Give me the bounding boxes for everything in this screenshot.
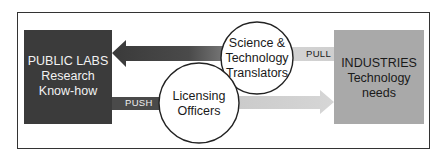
pull-label: PULL — [306, 48, 331, 59]
translators-line-1: Science & — [221, 36, 293, 51]
industries-line-2: Technology — [334, 71, 424, 86]
translators-line-2: Technology — [221, 51, 293, 66]
public-labs-label: PUBLIC LABS Research Know-how — [24, 54, 112, 99]
public-labs-line-2: Research — [24, 69, 112, 84]
public-labs-line-3: Know-how — [24, 84, 112, 99]
public-labs-line-1: PUBLIC LABS — [24, 54, 112, 69]
push-label: PUSH — [125, 97, 153, 108]
licensing-line-1: Licensing — [163, 89, 235, 104]
translators-label: Science & Technology Translators — [221, 36, 293, 81]
industries-line-1: INDUSTRIES — [334, 56, 424, 71]
translators-line-3: Translators — [221, 66, 293, 81]
industries-line-3: needs — [334, 86, 424, 101]
licensing-line-2: Officers — [163, 104, 235, 119]
industries-label: INDUSTRIES Technology needs — [334, 56, 424, 101]
licensing-label: Licensing Officers — [163, 89, 235, 119]
